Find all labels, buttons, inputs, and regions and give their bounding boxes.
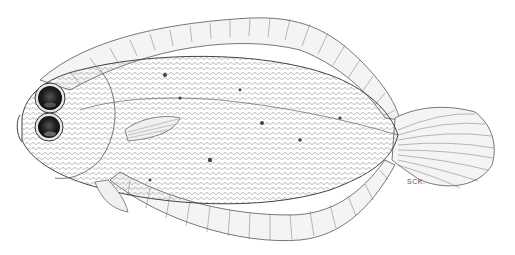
lower-eye <box>35 113 63 141</box>
upper-eye <box>35 83 65 113</box>
caudal-fin <box>392 107 494 188</box>
artist-signature: SCK. <box>407 178 425 185</box>
flatfish-illustration <box>0 0 515 255</box>
fish-body <box>22 56 398 203</box>
mouth <box>17 115 22 142</box>
